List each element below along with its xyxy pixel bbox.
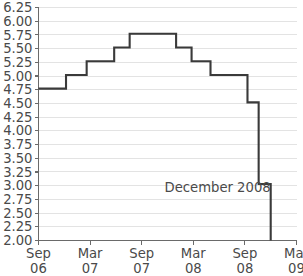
x-tick-label-year-0: 06 xyxy=(30,261,47,276)
x-tick-label-year-1: 07 xyxy=(82,261,99,276)
x-tick-label-year-3: 08 xyxy=(185,261,202,276)
x-tick-label-month-0: Sep xyxy=(26,246,51,261)
x-tick-label-year-5: 09 xyxy=(288,261,303,276)
data-series xyxy=(39,34,271,241)
x-tick-label-month-3: Mar xyxy=(181,246,206,261)
x-tick-label-month-5: Mar xyxy=(284,246,303,261)
annotation-0: December 2008 xyxy=(165,180,271,195)
x-tick-label-month-2: Sep xyxy=(129,246,154,261)
chart-container: 6.256.005.755.505.255.004.754.504.254.00… xyxy=(0,0,303,276)
x-tick-label-month-4: Sep xyxy=(232,246,257,261)
interest-rate-step-chart: 6.256.005.755.505.255.004.754.504.254.00… xyxy=(0,0,303,276)
y-axis-labels: 6.256.005.755.505.255.004.754.504.254.00… xyxy=(3,0,32,248)
chart-annotations: December 2008 xyxy=(165,180,271,195)
x-tick-label-year-4: 08 xyxy=(237,261,254,276)
x-axis-labels: Sep06Mar07Sep07Mar08Sep08Mar09 xyxy=(26,246,303,276)
series-line-rate xyxy=(39,34,271,241)
x-tick-label-year-2: 07 xyxy=(133,261,150,276)
x-tick-label-month-1: Mar xyxy=(78,246,103,261)
